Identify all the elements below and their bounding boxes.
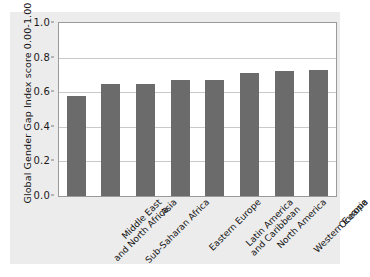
x-axis-labels: Middle Eastand North AfricaSub-Saharan A… bbox=[58, 197, 335, 275]
y-tick-mark bbox=[51, 125, 54, 126]
y-tick-label: 0.8 bbox=[33, 51, 50, 62]
y-tick-label: 0.2 bbox=[33, 155, 50, 166]
bar bbox=[171, 80, 190, 196]
x-tick-label-line: Oceania bbox=[336, 197, 369, 230]
bar bbox=[205, 80, 224, 196]
y-tick-label: 1.0 bbox=[33, 17, 50, 28]
y-tick-mark bbox=[51, 195, 54, 196]
bar bbox=[101, 84, 120, 196]
plot-area bbox=[58, 22, 337, 197]
y-tick-mark bbox=[51, 56, 54, 57]
bar bbox=[275, 71, 294, 196]
bar bbox=[309, 70, 328, 196]
y-tick-label: 0.4 bbox=[33, 120, 50, 131]
y-axis-ticks: 0.00.20.40.60.81.0 bbox=[20, 22, 54, 195]
bar bbox=[136, 84, 155, 196]
y-tick-label: 0.0 bbox=[33, 190, 50, 201]
bar-series bbox=[59, 23, 336, 196]
y-tick-mark bbox=[51, 160, 54, 161]
y-tick-mark bbox=[51, 91, 54, 92]
x-tick-label: Oceania bbox=[336, 197, 369, 230]
bar bbox=[67, 96, 86, 196]
bar bbox=[240, 73, 259, 196]
y-tick-label: 0.6 bbox=[33, 86, 50, 97]
y-tick-mark bbox=[51, 22, 54, 23]
